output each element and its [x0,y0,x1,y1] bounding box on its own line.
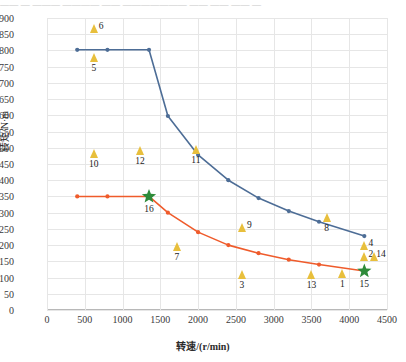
series-line [77,50,364,236]
y-tick-label: 150 [0,256,14,267]
triangle-marker [307,270,315,279]
series-data-point [147,48,151,52]
series-data-point [75,48,79,52]
gridline-vertical [387,18,388,310]
triangle-marker [360,241,368,250]
series-data-point [105,194,109,198]
y-tick-label: 650 [0,94,14,105]
y-tick-label: 250 [0,223,14,234]
series-data-point [105,48,109,52]
plot-area: 16156510121197831314214 [47,18,387,310]
star-marker-label: 15 [360,279,370,289]
triangle-marker-label: 11 [191,155,200,165]
series-data-point [287,209,291,213]
y-tick-label: 700 [0,77,14,88]
series-data-point [196,230,200,234]
triangle-marker [136,146,144,155]
triangle-marker [360,252,368,261]
star-marker [357,264,371,278]
triangle-marker [238,223,246,232]
triangle-marker [90,24,98,33]
y-tick-label: 900 [0,13,14,24]
cropped-text-strip: —— — ——— ———— —— ——————— —— —— —— — [0,0,406,8]
triangle-marker-label: 8 [324,223,329,233]
series-data-point [287,258,291,262]
y-tick-label: 300 [0,207,14,218]
y-tick-label: 450 [0,159,14,170]
triangle-marker-label: 7 [175,252,180,262]
gridline-horizontal [47,310,387,311]
x-tick-label: 4500 [365,314,406,325]
y-tick-label: 0 [0,305,14,316]
triangle-marker-label: 9 [247,220,252,230]
series-data-point [75,194,79,198]
series-data-point [256,251,260,255]
series-data-point [166,114,170,118]
y-tick-label: 750 [0,61,14,72]
y-tick-label: 850 [0,29,14,40]
triangle-marker-label: 14 [376,249,386,259]
triangle-marker [238,270,246,279]
triangle-marker [90,53,98,62]
triangle-marker [338,269,346,278]
y-tick-label: 400 [0,175,14,186]
triangle-marker-label: 5 [91,63,96,73]
triangle-marker [173,242,181,251]
y-tick-label: 100 [0,272,14,283]
triangle-marker [323,213,331,222]
y-tick-label: 50 [0,288,14,299]
series-data-point [166,211,170,215]
series-data-point [226,178,230,182]
chart-container: —— — ——— ———— —— ——————— —— —— —— — 1615… [0,0,406,362]
series-data-point [256,196,260,200]
y-axis-label: 转矩/N·m [0,111,11,152]
triangle-marker-label: 3 [240,280,245,290]
triangle-marker-label: 4 [369,238,374,248]
x-axis-label: 转速/(r/min) [0,338,406,353]
triangle-marker-label: 10 [89,159,99,169]
y-tick-label: 350 [0,191,14,202]
series-line [77,196,364,271]
series-data-point [317,262,321,266]
triangle-marker-label: 6 [99,21,104,31]
star-marker-label: 16 [144,204,154,214]
triangle-marker-label: 13 [307,280,317,290]
triangle-marker [192,145,200,154]
triangle-marker-label: 1 [340,279,345,289]
series-data-point [362,234,366,238]
y-tick-label: 800 [0,45,14,56]
triangle-marker-label: 12 [135,156,145,166]
y-tick-label: 200 [0,240,14,251]
series-data-point [317,220,321,224]
series-data-point [226,243,230,247]
triangle-marker [90,149,98,158]
